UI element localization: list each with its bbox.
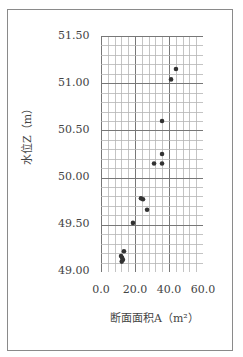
y-tick-label: 51.50 — [58, 29, 98, 42]
y-axis-label: 水位Z（m） — [18, 103, 34, 165]
y-tick-label: 51.00 — [58, 76, 98, 89]
y-tick-label: 49.50 — [58, 217, 98, 230]
data-point — [131, 221, 136, 226]
data-point — [152, 161, 157, 166]
x-tick-label: 60.0 — [185, 283, 221, 296]
data-point — [141, 197, 146, 202]
y-tick-label: 50.50 — [58, 123, 98, 136]
data-point — [145, 207, 150, 212]
y-tick-label: 50.00 — [58, 170, 98, 183]
y-tick-label: 49.00 — [58, 264, 98, 277]
scatter-plot — [101, 36, 203, 272]
data-point — [160, 152, 165, 157]
data-point — [160, 119, 165, 124]
plot-area — [101, 36, 203, 272]
x-tick-label: 40.0 — [151, 283, 187, 296]
data-point — [122, 249, 127, 254]
x-tick-label: 20.0 — [117, 283, 153, 296]
data-point — [119, 259, 124, 264]
data-point — [160, 161, 165, 166]
data-point — [169, 77, 174, 82]
data-point — [174, 67, 179, 72]
x-tick-label: 0.0 — [83, 283, 119, 296]
x-axis-label: 断面面积A（m²） — [110, 309, 199, 325]
